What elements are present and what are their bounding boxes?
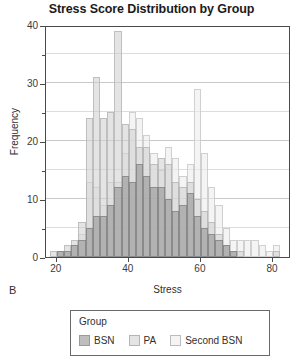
y-tick-label: 0 — [14, 252, 38, 263]
histogram-bar — [114, 187, 121, 257]
y-tick — [40, 26, 45, 27]
x-tick-label: 60 — [185, 263, 215, 274]
histogram-bar — [237, 251, 244, 257]
legend-item[interactable]: PA — [129, 335, 157, 346]
histogram-bar — [187, 193, 194, 257]
y-tick-minor — [42, 113, 45, 114]
legend-swatch-icon — [170, 335, 181, 346]
y-tick-label: 10 — [14, 194, 38, 205]
histogram-bar — [273, 251, 280, 257]
legend-swatch-icon — [79, 335, 90, 346]
y-axis-label: Frequency — [9, 97, 20, 167]
legend-swatch-icon — [129, 335, 140, 346]
x-tick-label: 40 — [113, 263, 143, 274]
histogram-bar — [259, 245, 266, 257]
histogram-bar — [57, 251, 64, 257]
plot-area — [45, 26, 290, 258]
x-tick — [128, 258, 129, 262]
y-tick-label: 30 — [14, 78, 38, 89]
histogram-bar — [230, 251, 237, 257]
histogram-bars — [46, 27, 289, 257]
histogram-bar — [100, 216, 107, 257]
x-tick — [272, 258, 273, 262]
legend-item-label: Second BSN — [185, 335, 242, 346]
page-title: Stress Score Distribution by Group — [0, 2, 303, 16]
histogram-bar — [266, 251, 273, 257]
histogram-bar — [223, 245, 230, 257]
histogram-bar — [143, 176, 150, 257]
legend-items: BSNPASecond BSN — [79, 335, 265, 346]
legend-title: Group — [79, 316, 107, 327]
histogram-bar — [86, 228, 93, 257]
y-tick-label: 40 — [14, 20, 38, 31]
histogram-bar — [78, 240, 85, 257]
histogram-bar — [165, 199, 172, 257]
histogram-bar — [172, 211, 179, 257]
y-tick-minor — [42, 171, 45, 172]
y-tick-minor — [42, 229, 45, 230]
histogram-bar — [158, 187, 165, 257]
histogram-bar — [122, 176, 129, 257]
histogram-bar — [93, 216, 100, 257]
histogram-bar — [208, 234, 215, 257]
x-tick — [200, 258, 201, 262]
histogram-bar — [179, 205, 186, 257]
legend: Group BSNPASecond BSN — [70, 310, 270, 356]
histogram-bar — [129, 182, 136, 257]
histogram-bar — [251, 240, 258, 257]
legend-item[interactable]: Second BSN — [170, 335, 242, 346]
histogram-bar — [71, 245, 78, 257]
histogram-bar — [64, 251, 71, 257]
x-tick — [56, 258, 57, 262]
y-tick — [40, 258, 45, 259]
histogram-bar — [136, 164, 143, 257]
x-axis-label: Stress — [45, 284, 290, 295]
histogram-bar — [201, 228, 208, 257]
histogram-bar — [50, 251, 57, 257]
legend-item-label: BSN — [94, 335, 115, 346]
histogram-bar — [107, 205, 114, 257]
y-tick-minor — [42, 55, 45, 56]
y-tick — [40, 84, 45, 85]
legend-item-label: PA — [144, 335, 157, 346]
legend-item[interactable]: BSN — [79, 335, 115, 346]
x-tick-label: 80 — [257, 263, 287, 274]
y-tick — [40, 142, 45, 143]
histogram-bar — [150, 187, 157, 257]
histogram-bar — [194, 216, 201, 257]
panel-label: B — [9, 284, 16, 296]
histogram-bar — [244, 240, 251, 257]
histogram-bar — [215, 240, 222, 257]
y-tick — [40, 200, 45, 201]
x-tick-label: 20 — [41, 263, 71, 274]
